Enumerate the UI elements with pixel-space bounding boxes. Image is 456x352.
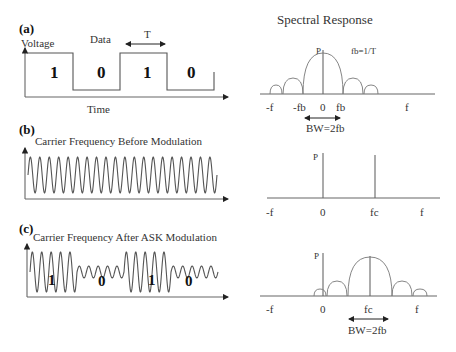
spectrum-c-tick-neg-f: -f: [266, 303, 274, 315]
spectrum-a-side-lobe-left: [283, 78, 303, 94]
ask-modulation-figure: (a) Voltage Data T 1 0 1 0 Time Spectral…: [0, 0, 456, 352]
spectrum-c-peak-label: P: [314, 251, 319, 261]
spectrum-c-side-lobe-left-2: [314, 289, 326, 296]
ask-bit-3: 1: [148, 272, 156, 288]
period-label: T: [144, 28, 151, 40]
ask-bit-4: 0: [185, 273, 193, 289]
spectrum-a-bandwidth-label: BW=2fb: [306, 122, 345, 134]
spectrum-a-tick-neg-f: -f: [266, 101, 274, 113]
spectrum-b-tick-zero: 0: [320, 206, 326, 218]
spectrum-c-tick-zero: 0: [320, 303, 326, 315]
spectrum-c-side-lobe-left: [327, 281, 347, 296]
panel-c-time-domain: (c) Carrier Frequency After ASK Modulati…: [19, 221, 228, 297]
spectrum-a-tick-fb: fb: [336, 101, 346, 113]
spectrum-c-tick-f: f: [415, 303, 419, 315]
spectrum-c-tick-fc: fc: [364, 303, 373, 315]
panel-b-label: (b): [19, 122, 35, 137]
spectrum-a-side-lobe-left-2: [270, 85, 282, 94]
spectrum-b-tick-neg-f: -f: [266, 206, 274, 218]
panel-a-time-domain: (a) Voltage Data T 1 0 1 0 Time: [19, 21, 228, 115]
data-bit-2: 0: [97, 63, 106, 82]
data-bit-3: 1: [143, 63, 152, 82]
spectrum-a-formula: fb=1/T: [351, 46, 377, 56]
panel-b-spectrum: P -f 0 fc f: [266, 152, 440, 218]
data-bit-1: 1: [50, 63, 59, 82]
spectrum-b-peak-label: P: [313, 152, 318, 162]
ask-bit-1: 1: [48, 272, 56, 288]
spectrum-c-side-lobe-right: [392, 281, 412, 296]
spectrum-a-tick-zero: 0: [320, 101, 326, 113]
spectrum-b-tick-f: f: [420, 206, 424, 218]
carrier-wave-unmodulated: [28, 157, 217, 193]
time-axis-label: Time: [87, 103, 110, 115]
spectrum-c-side-lobe-right-2: [413, 289, 427, 296]
panel-b-time-domain: (b) Carrier Frequency Before Modulation: [19, 122, 228, 199]
panel-c-spectrum: P -f 0 fc f BW=2fb: [260, 251, 437, 336]
spectrum-a-tick-f: f: [405, 101, 409, 113]
data-bit-4: 0: [187, 63, 196, 82]
ask-bit-2: 0: [98, 273, 106, 289]
spectrum-a-side-lobe-right-2: [364, 85, 378, 94]
carrier-before-title: Carrier Frequency Before Modulation: [35, 135, 203, 147]
spectrum-a-side-lobe-right: [343, 78, 363, 94]
spectral-response-title: Spectral Response: [277, 12, 373, 27]
spectrum-a-tick-neg-fb: -fb: [293, 101, 306, 113]
spectrum-b-tick-fc: fc: [370, 206, 379, 218]
carrier-after-title: Carrier Frequency After ASK Modulation: [33, 231, 217, 243]
panel-a-label: (a): [19, 21, 34, 36]
spectrum-c-bandwidth-label: BW=2fb: [348, 324, 387, 336]
data-label: Data: [90, 33, 111, 45]
panel-a-spectrum: Spectral Response P fb=1/T -f -fb 0 fb f…: [260, 12, 435, 134]
voltage-axis-label: Voltage: [21, 37, 55, 49]
panel-c-label: (c): [19, 221, 33, 236]
